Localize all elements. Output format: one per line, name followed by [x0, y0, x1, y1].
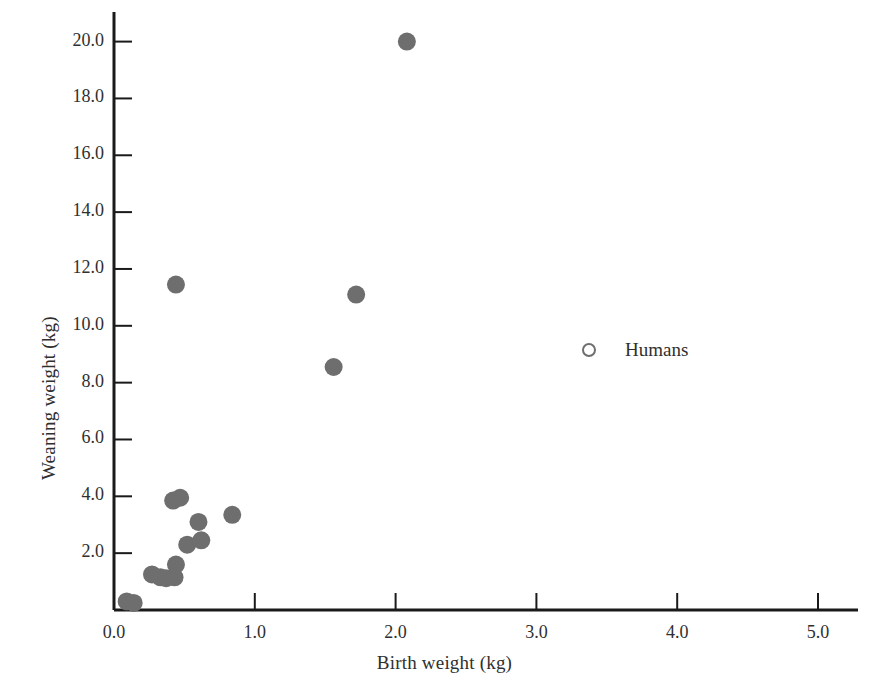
x-axis-tick-label: 3.0 [506, 622, 566, 643]
data-point [189, 513, 207, 531]
y-axis-tick-label: 2.0 [40, 541, 104, 562]
data-point [347, 286, 365, 304]
x-axis-tick-label: 4.0 [647, 622, 707, 643]
data-point [398, 33, 416, 51]
legend-marker-group [583, 344, 595, 356]
x-axis-tick-label: 1.0 [225, 622, 285, 643]
x-axis-title: Birth weight (kg) [0, 652, 889, 674]
legend-marker-open-circle-icon [583, 344, 595, 356]
data-point [192, 531, 210, 549]
y-axis-tick-label: 18.0 [40, 86, 104, 107]
y-axis-tick-label: 16.0 [40, 143, 104, 164]
y-axis-tick-label: 4.0 [40, 484, 104, 505]
data-point [171, 489, 189, 507]
data-point [157, 569, 175, 587]
y-axis-tick-label: 14.0 [40, 200, 104, 221]
data-points-group [118, 33, 416, 612]
plot-canvas [0, 0, 889, 688]
y-axis-title: Weaning weight (kg) [38, 316, 60, 480]
data-point [325, 358, 343, 376]
y-axis-tick-label: 20.0 [40, 30, 104, 51]
x-axis-tick-label: 0.0 [84, 622, 144, 643]
y-axis-tick-label: 12.0 [40, 257, 104, 278]
x-axis-tick-label: 2.0 [366, 622, 426, 643]
data-point [125, 594, 143, 612]
legend-item-humans-label: Humans [625, 339, 688, 361]
data-point [223, 506, 241, 524]
scatter-chart-figure: 2.04.06.08.010.012.014.016.018.020.0 0.0… [0, 0, 889, 688]
x-axis-tick-label: 5.0 [788, 622, 848, 643]
data-point [167, 276, 185, 294]
